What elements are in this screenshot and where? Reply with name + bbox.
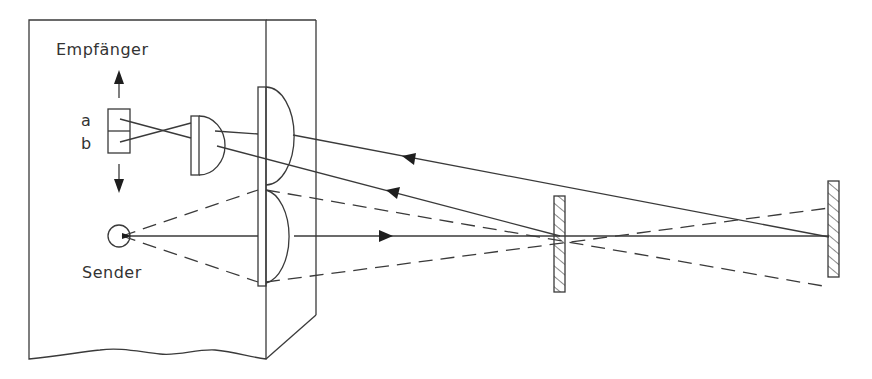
ray-small-lens-upper [215,131,258,134]
main-lens-upper [266,87,294,185]
housing-front-face [29,20,266,359]
arrow-return-near [386,187,400,199]
beam-upper-dashed [266,190,829,287]
beam-lower-dashed [266,208,829,282]
optical-diagram: Empfänger a b Sender [0,0,872,379]
sender-label: Sender [82,263,142,282]
receiver-up-arrow [114,70,124,98]
housing-bottom-edge [266,315,316,359]
receiver-segment-a-label: a [81,111,91,130]
arrow-beam-center [379,230,393,242]
receiver-segment-b-label: b [81,134,92,153]
arrow-return-far [402,153,416,165]
reflector-far [828,181,839,277]
sender-ray-upper [122,190,258,236]
main-lens-lower [266,190,289,283]
main-lens-plate [258,87,266,286]
reflector-near [554,196,565,292]
receiver-label: Empfänger [56,40,149,59]
housing [29,20,316,359]
receiver [108,109,130,153]
receiver-down-arrow [114,164,124,193]
sender-ray-lower [122,236,258,282]
small-lens [191,116,225,175]
